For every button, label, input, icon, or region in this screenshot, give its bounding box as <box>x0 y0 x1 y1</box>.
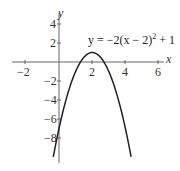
y-tick-label: −4 <box>44 93 57 107</box>
x-axis-label: x <box>165 52 172 66</box>
y-tick-label: −2 <box>44 74 57 88</box>
x-tick-label: 4 <box>122 65 128 79</box>
x-tick-label: 6 <box>155 65 161 79</box>
x-ticks: −2 2 4 6 <box>17 60 161 79</box>
parabola-chart: x y −2 2 4 6 4 2 −2 −4 −6 −8 y = −2(x − … <box>0 0 180 171</box>
y-tick-label: −8 <box>44 131 57 145</box>
y-tick-label: 4 <box>50 17 56 31</box>
y-ticks: 4 2 −2 −4 −6 −8 <box>44 17 61 145</box>
x-tick-label: 2 <box>89 65 95 79</box>
y-tick-label: −6 <box>44 112 57 126</box>
y-tick-label: 2 <box>50 36 56 50</box>
y-axis-label: y <box>57 6 64 20</box>
x-tick-label: −2 <box>17 65 30 79</box>
equation-label: y = −2(x − 2)2 + 1 <box>88 32 175 47</box>
